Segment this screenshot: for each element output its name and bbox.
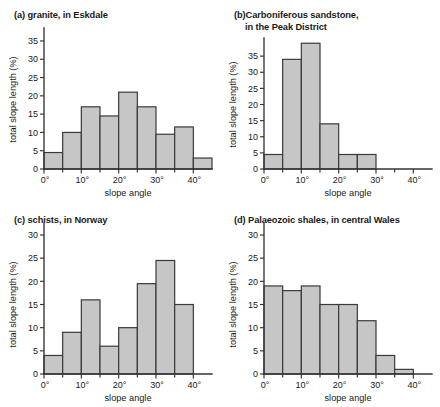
y-tick-label-b-1: 5 (253, 148, 258, 158)
bar-a-3 (100, 116, 119, 169)
x-axis-title-a: slope angle (105, 188, 152, 198)
y-tick-label-b-0: 0 (253, 164, 258, 174)
y-tick-label-a-7: 35 (28, 36, 38, 46)
panel-d: (d) Palaeozoic shales, in central Wales … (220, 211, 440, 407)
x-tick-label-a-2: 20° (113, 175, 127, 185)
bar-a-0 (44, 153, 63, 169)
y-tick-label-d-1: 5 (253, 346, 258, 356)
bar-c-6 (156, 260, 175, 374)
bar-b-3 (320, 124, 339, 169)
y-tick-label-d-2: 10 (248, 323, 258, 333)
cropped-caption-sliver (0, 0, 440, 5)
bar-d-7 (395, 369, 414, 374)
y-axis-title-c: total slope length (%) (8, 261, 18, 347)
x-tick-label-b-0: 0° (261, 175, 270, 185)
bar-b-5 (357, 154, 376, 169)
y-tick-label-c-5: 25 (28, 253, 38, 263)
bar-b-1 (283, 59, 302, 169)
y-tick-label-a-4: 20 (28, 91, 38, 101)
x-axis-title-d: slope angle (325, 393, 372, 403)
panel-d-svg: 0510152025300°10°20°30°40°slope angletot… (220, 211, 440, 407)
panel-a-plot: 051015202530350°10°20°30°40°slope anglet… (0, 6, 220, 202)
y-tick-label-a-3: 15 (28, 109, 38, 119)
panel-a-svg: 051015202530350°10°20°30°40°slope anglet… (0, 6, 220, 202)
y-tick-label-c-4: 20 (28, 277, 38, 287)
x-tick-label-a-0: 0° (41, 175, 50, 185)
bar-d-1 (283, 291, 302, 374)
y-tick-label-a-2: 10 (28, 128, 38, 138)
x-tick-label-b-4: 40° (408, 175, 422, 185)
y-tick-label-c-1: 5 (33, 346, 38, 356)
y-tick-label-a-5: 25 (28, 73, 38, 83)
y-tick-label-a-6: 30 (28, 54, 38, 64)
bar-c-2 (81, 300, 100, 374)
panel-d-plot: 0510152025300°10°20°30°40°slope angletot… (220, 211, 440, 407)
bar-d-5 (357, 321, 376, 374)
y-tick-label-a-0: 0 (33, 164, 38, 174)
y-tick-label-b-6: 30 (248, 67, 258, 77)
x-tick-label-c-4: 40° (188, 380, 202, 390)
panel-c-plot: 0510152025300°10°20°30°40°slope angletot… (0, 211, 220, 407)
bar-c-5 (137, 284, 156, 374)
y-tick-label-c-3: 15 (28, 300, 38, 310)
y-axis-title-a: total slope length (%) (8, 56, 18, 142)
y-tick-label-d-4: 20 (248, 277, 258, 287)
bar-c-4 (119, 328, 138, 374)
bar-d-2 (301, 286, 320, 374)
y-tick-label-d-5: 25 (248, 253, 258, 263)
bar-b-0 (264, 154, 283, 169)
x-tick-label-c-3: 30° (150, 380, 164, 390)
x-tick-label-c-0: 0° (41, 380, 50, 390)
panel-c: (c) schists, in Norway 0510152025300°10°… (0, 211, 220, 407)
x-tick-label-a-1: 10° (76, 175, 90, 185)
bar-c-0 (44, 355, 63, 374)
x-tick-label-a-3: 30° (150, 175, 164, 185)
y-tick-label-b-2: 10 (248, 132, 258, 142)
bar-a-1 (63, 132, 82, 169)
y-tick-label-d-6: 30 (248, 230, 258, 240)
x-tick-label-b-2: 20° (333, 175, 347, 185)
x-tick-label-b-1: 10° (296, 175, 310, 185)
x-axis-title-c: slope angle (105, 393, 152, 403)
x-tick-label-c-1: 10° (76, 380, 90, 390)
bar-a-6 (156, 134, 175, 169)
bar-b-4 (339, 154, 358, 169)
y-tick-label-b-4: 20 (248, 100, 258, 110)
y-tick-label-b-5: 25 (248, 84, 258, 94)
y-axis-title-d: total slope length (%) (228, 261, 238, 347)
y-tick-label-b-7: 35 (248, 51, 258, 61)
bar-c-7 (175, 305, 194, 375)
y-tick-label-b-3: 15 (248, 116, 258, 126)
panel-c-svg: 0510152025300°10°20°30°40°slope angletot… (0, 211, 220, 407)
bar-b-2 (301, 43, 320, 169)
y-tick-label-a-1: 5 (33, 146, 38, 156)
bar-a-7 (175, 127, 194, 169)
bar-c-1 (63, 332, 82, 374)
x-tick-label-c-2: 20° (113, 380, 127, 390)
bar-a-4 (119, 92, 138, 169)
x-tick-label-d-3: 30° (370, 380, 384, 390)
bar-d-0 (264, 286, 283, 374)
bar-d-4 (339, 305, 358, 375)
panel-b: (b)Carboniferous sandstone, in the Peak … (220, 6, 440, 202)
x-tick-label-d-1: 10° (296, 380, 310, 390)
y-tick-label-c-6: 30 (28, 230, 38, 240)
x-tick-label-d-2: 20° (333, 380, 347, 390)
y-tick-label-d-0: 0 (253, 369, 258, 379)
x-tick-label-d-4: 40° (408, 380, 422, 390)
x-tick-label-d-0: 0° (261, 380, 270, 390)
y-tick-label-c-0: 0 (33, 369, 38, 379)
panel-b-plot: 051015202530350°10°20°30°40°slope anglet… (220, 6, 440, 202)
bar-a-2 (81, 107, 100, 169)
y-tick-label-c-2: 10 (28, 323, 38, 333)
x-axis-title-b: slope angle (325, 188, 372, 198)
panel-a: (a) granite, in Eskdale 051015202530350°… (0, 6, 220, 202)
x-tick-label-a-4: 40° (188, 175, 202, 185)
bar-c-3 (100, 346, 119, 374)
y-tick-label-d-3: 15 (248, 300, 258, 310)
bar-a-8 (193, 158, 212, 169)
panel-b-svg: 051015202530350°10°20°30°40°slope anglet… (220, 6, 440, 202)
x-tick-label-b-3: 30° (370, 175, 384, 185)
bar-a-5 (137, 107, 156, 169)
